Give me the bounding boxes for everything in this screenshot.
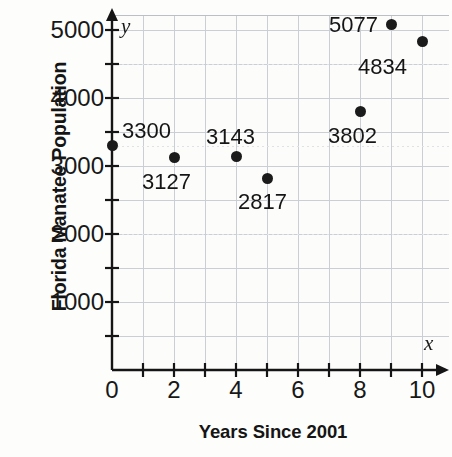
data-point-value-label: 3143 (206, 126, 255, 148)
data-point-value-label: 3802 (328, 125, 377, 147)
data-point-value-label: 3300 (122, 120, 171, 142)
data-point (262, 173, 273, 184)
data-point-value-label: 2817 (238, 191, 287, 213)
data-point (107, 140, 118, 151)
data-point (231, 151, 242, 162)
scatter-plot-figure: Florida Manatee Population Years Since 2… (0, 0, 452, 457)
data-point (355, 106, 366, 117)
data-point (417, 36, 428, 47)
data-point (386, 19, 397, 30)
data-point (169, 152, 180, 163)
data-point-value-label: 3127 (142, 171, 191, 193)
data-point-value-label: 4834 (358, 56, 407, 78)
data-point-value-label: 5077 (329, 14, 378, 36)
